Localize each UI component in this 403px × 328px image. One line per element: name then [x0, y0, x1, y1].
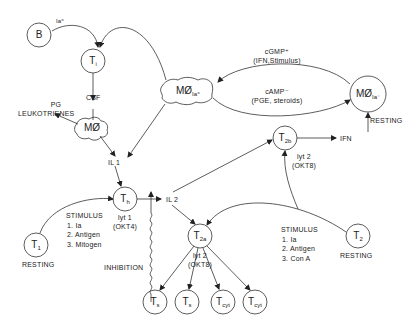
pg-label: PG	[36, 101, 76, 109]
ifn-label: IFN	[340, 135, 352, 143]
macrophage-resting-status: RESTING	[370, 117, 403, 125]
cgmp-label: cGMP⁺	[252, 48, 302, 56]
t1-label: T1	[26, 240, 46, 253]
t-cyt2-label: Tcyt	[243, 297, 267, 310]
t-h-marker: lyt 1	[109, 214, 141, 222]
t2-status: RESTING	[340, 252, 373, 260]
b-cell-label: B	[31, 30, 47, 40]
t-i-label: Ti	[84, 56, 102, 69]
t-h-okt: (OKT4)	[109, 223, 141, 231]
b-cell-ia-label: Ia⁺	[56, 17, 65, 25]
t-s1-label: Ts	[145, 297, 165, 310]
camp-label: cAMP⁻	[252, 88, 302, 96]
csf-label: CSF	[86, 94, 101, 102]
t-2b-marker: lyt 2	[288, 153, 320, 161]
camp-sub-label: (PGE, steroids)	[245, 97, 309, 105]
inhibition-wave	[150, 192, 152, 302]
t-s2-label: Ts	[177, 297, 197, 310]
t1-status: RESTING	[22, 261, 55, 269]
t-cyt1-label: Tcyt	[211, 297, 235, 310]
leukotrienes-label: LEUKOTRIENES	[18, 110, 74, 118]
macrophage-label: MØ	[80, 123, 104, 133]
macrophage-resting-label: MØIa⁻	[350, 89, 386, 102]
t-2a-marker: lyt 2	[184, 252, 216, 260]
t-2b-label: T2b	[273, 133, 297, 146]
t-2a-okt: (OKT8)	[184, 261, 216, 269]
il1-label: IL 1	[108, 159, 120, 167]
inhibition-label: INHIBITION	[104, 264, 143, 272]
cgmp-sub-label: (IFN,Stimulus)	[245, 57, 309, 65]
il2-label: IL 2	[166, 196, 178, 204]
t-2b-okt: (OKT8)	[288, 162, 320, 170]
macrophage-activated-label: MØIa⁺	[168, 86, 208, 99]
stimulus-left: STIMULUS 1. Ia 2. Antigen 3. Mitogen	[66, 211, 103, 249]
stimulus-right: STIMULUS 1. Ia 2. Antigen 3. Con A	[281, 225, 318, 263]
t-2a-label: T2a	[188, 231, 212, 244]
t-h-label: Th	[115, 194, 135, 207]
t2-label: T2	[348, 231, 368, 244]
